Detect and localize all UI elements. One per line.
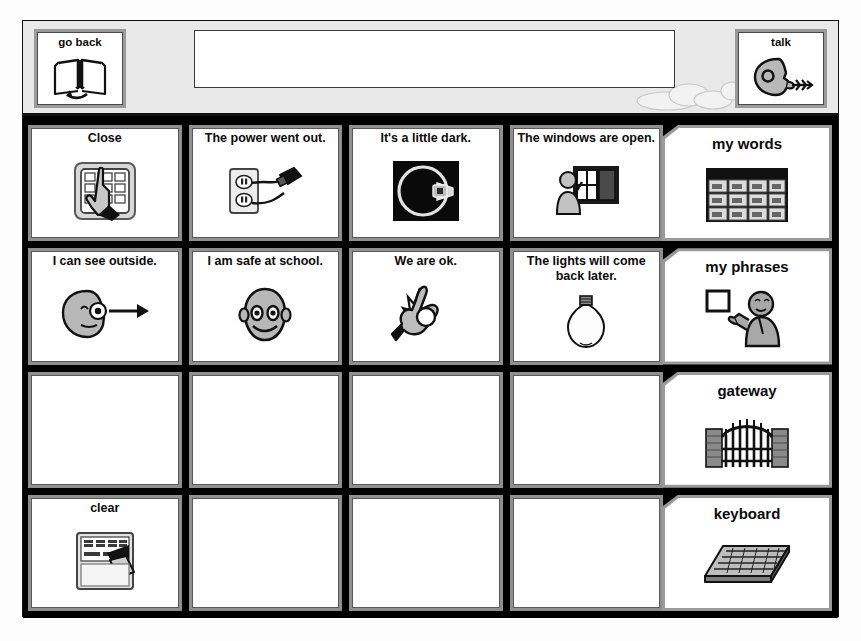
board-header: go back [23, 21, 838, 116]
talk-button[interactable]: talk [735, 29, 827, 108]
empty-cell-art [353, 501, 499, 607]
ok-hand-gesture-icon [353, 269, 499, 361]
grid-cell-i-am-safe-at-school[interactable]: I am safe at school. [189, 248, 343, 364]
cell-label: Close [32, 129, 178, 146]
grid-cell-empty[interactable] [510, 495, 664, 611]
grid-cell-empty[interactable] [510, 372, 664, 488]
sidebar-item-keyboard[interactable]: keyboard [662, 495, 832, 611]
grid-cell-empty[interactable] [28, 372, 182, 488]
smiling-face-icon [193, 269, 339, 361]
cell-label: The power went out. [193, 129, 339, 146]
category-sidebar: my words [662, 119, 832, 618]
screen: go back [0, 0, 861, 641]
sidebar-item-gateway[interactable]: gateway [662, 372, 832, 488]
grid-cell-empty[interactable] [189, 372, 343, 488]
grid-cell-its-a-little-dark[interactable]: It's a little dark. [349, 125, 503, 241]
grid-cell-power-went-out[interactable]: The power went out. [189, 125, 343, 241]
hand-pressing-device-icon [32, 146, 178, 238]
grid-cell-empty[interactable] [189, 495, 343, 611]
head-looking-arrow-icon [32, 269, 178, 361]
grid-cell-windows-are-open[interactable]: The windows are open. [510, 125, 664, 241]
sidebar-item-label: my phrases [701, 258, 792, 275]
cell-label: I can see outside. [32, 252, 178, 269]
message-display-bar[interactable] [194, 30, 675, 88]
iron-gate-icon [665, 399, 829, 485]
speaking-head-icon [739, 49, 823, 104]
outlet-unplugged-cord-icon [193, 146, 339, 238]
picture-grid-icon [665, 152, 829, 238]
grid-cell-empty[interactable] [349, 372, 503, 488]
empty-cell-art [193, 501, 339, 607]
talk-label: talk [771, 36, 791, 49]
person-at-open-window-icon [514, 146, 660, 238]
grid-cell-i-can-see-outside[interactable]: I can see outside. [28, 248, 182, 364]
person-holding-card-icon [665, 275, 829, 361]
cell-label: clear [32, 499, 178, 516]
open-book-back-icon [38, 49, 122, 104]
keyboard-icon [665, 522, 829, 608]
light-bulb-icon [514, 283, 660, 360]
sidebar-item-label: my words [708, 135, 786, 152]
grid-cell-close[interactable]: Close [28, 125, 182, 241]
empty-cell-art [193, 378, 339, 484]
sidebar-item-label: keyboard [710, 505, 785, 522]
erase-board-icon [32, 515, 178, 607]
cell-label: The windows are open. [514, 129, 660, 146]
communication-board: go back [22, 20, 839, 617]
empty-cell-art [32, 378, 178, 484]
dark-room-dimmer-icon [353, 146, 499, 238]
grid-cell-we-are-ok[interactable]: We are ok. [349, 248, 503, 364]
message-text [195, 31, 674, 41]
grid-cell-empty[interactable] [349, 495, 503, 611]
go-back-label: go back [58, 36, 101, 49]
empty-cell-art [514, 501, 660, 607]
cell-label: It's a little dark. [353, 129, 499, 146]
cell-label: We are ok. [353, 252, 499, 269]
grid-cell-lights-come-back-later[interactable]: The lights will come back later. [510, 248, 664, 364]
cell-label: I am safe at school. [193, 252, 339, 269]
sidebar-item-label: gateway [713, 382, 780, 399]
empty-cell-art [514, 378, 660, 484]
sidebar-item-my-words[interactable]: my words [662, 125, 832, 241]
grid-cell-clear[interactable]: clear [28, 495, 182, 611]
go-back-button[interactable]: go back [34, 29, 126, 108]
sidebar-item-my-phrases[interactable]: my phrases [662, 248, 832, 364]
cell-label: The lights will come back later. [514, 252, 660, 283]
empty-cell-art [353, 378, 499, 484]
